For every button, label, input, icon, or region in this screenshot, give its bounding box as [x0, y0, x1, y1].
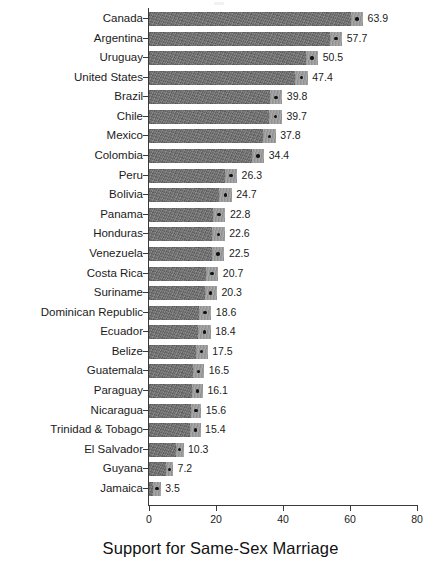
category-label: Honduras	[93, 224, 143, 244]
point-estimate-dot	[210, 272, 213, 275]
point-estimate-dot	[194, 409, 197, 412]
value-label: 15.4	[205, 420, 225, 440]
value-label: 3.5	[165, 479, 180, 499]
value-label: 18.4	[215, 322, 235, 342]
bar-row: Suriname20.3	[0, 283, 441, 303]
value-label: 50.5	[323, 48, 343, 68]
category-label: Colombia	[94, 146, 143, 166]
value-label: 26.3	[242, 166, 262, 186]
bar	[149, 247, 224, 261]
bar	[149, 482, 161, 496]
bar-row: Chile39.7	[0, 107, 441, 127]
bar-row: Ecuador18.4	[0, 322, 441, 342]
bar	[149, 423, 201, 437]
bar-row: Paraguay16.1	[0, 381, 441, 401]
x-axis-title: Support for Same-Sex Marriage	[0, 539, 441, 558]
bar	[149, 32, 342, 46]
bar	[149, 384, 203, 398]
x-axis-tick	[417, 505, 418, 511]
bar-row: Honduras22.6	[0, 224, 441, 244]
x-axis-tick-label: 0	[146, 513, 152, 525]
bar	[149, 364, 204, 378]
point-estimate-dot	[256, 154, 259, 157]
point-estimate-dot	[224, 193, 227, 196]
point-estimate-dot	[334, 37, 337, 40]
category-label: Guyana	[103, 459, 143, 479]
point-estimate-dot	[229, 174, 232, 177]
bar	[149, 71, 308, 85]
bar-row: Guatemala16.5	[0, 361, 441, 381]
category-label: Panama	[100, 205, 143, 225]
bar	[149, 169, 237, 183]
category-label: Brazil	[114, 87, 143, 107]
value-label: 20.3	[222, 283, 242, 303]
bar	[149, 325, 211, 339]
value-label: 17.5	[212, 342, 232, 362]
bar-row: Brazil39.8	[0, 87, 441, 107]
bar-row: Trinidad & Tobago15.4	[0, 420, 441, 440]
category-label: Nicaragua	[91, 401, 143, 421]
bar	[149, 306, 211, 320]
bar	[149, 110, 282, 124]
bar	[149, 443, 184, 457]
bar-row: Argentina57.7	[0, 29, 441, 49]
point-estimate-dot	[194, 428, 197, 431]
bar	[149, 12, 363, 26]
bar	[149, 267, 218, 281]
bar-row: United States47.4	[0, 68, 441, 88]
value-label: 34.4	[269, 146, 289, 166]
category-label: Guatemala	[87, 361, 143, 381]
bar-row: Guyana7.2	[0, 459, 441, 479]
category-label: El Salvador	[84, 440, 143, 460]
value-label: 57.7	[347, 29, 367, 49]
value-label: 22.6	[229, 224, 249, 244]
category-label: Bolivia	[109, 185, 143, 205]
x-axis-tick	[350, 505, 351, 511]
bar	[149, 51, 318, 65]
value-label: 10.3	[188, 440, 208, 460]
bar-row: Bolivia24.7	[0, 185, 441, 205]
value-label: 16.1	[207, 381, 227, 401]
category-label: Uruguay	[100, 48, 143, 68]
bar	[149, 208, 225, 222]
point-estimate-dot	[274, 96, 277, 99]
x-axis-tick	[149, 505, 150, 511]
bar	[149, 149, 264, 163]
value-label: 63.9	[368, 9, 388, 29]
point-estimate-dot	[355, 17, 358, 20]
bar-rows: Canada63.9Argentina57.7Uruguay50.5United…	[0, 0, 441, 505]
bar-row: Canada63.9	[0, 9, 441, 29]
x-axis-tick	[216, 505, 217, 511]
category-label: Jamaica	[100, 479, 143, 499]
point-estimate-dot	[168, 468, 171, 471]
bar	[149, 345, 208, 359]
value-label: 18.6	[216, 303, 236, 323]
category-label: Venezuela	[89, 244, 143, 264]
bar-row: Jamaica3.5	[0, 479, 441, 499]
x-axis-tick-label: 20	[210, 513, 222, 525]
bar	[149, 286, 217, 300]
category-label: Belize	[112, 342, 143, 362]
category-label: Argentina	[94, 29, 143, 49]
value-label: 7.2	[178, 459, 193, 479]
value-label: 47.4	[312, 68, 332, 88]
value-label: 37.8	[280, 126, 300, 146]
category-label: Trinidad & Tobago	[50, 420, 143, 440]
point-estimate-dot	[203, 330, 206, 333]
point-estimate-dot	[203, 311, 206, 314]
plot-area: Canada63.9Argentina57.7Uruguay50.5United…	[0, 0, 441, 572]
x-axis-tick	[283, 505, 284, 511]
category-label: Costa Rica	[87, 264, 143, 284]
point-estimate-dot	[196, 389, 199, 392]
category-label: United States	[74, 68, 143, 88]
value-label: 16.5	[209, 361, 229, 381]
value-label: 22.8	[230, 205, 250, 225]
category-label: Chile	[117, 107, 143, 127]
point-estimate-dot	[217, 233, 220, 236]
bar	[149, 227, 225, 241]
x-axis-tick-label: 60	[344, 513, 356, 525]
bar-row: Dominican Republic18.6	[0, 303, 441, 323]
category-label: Dominican Republic	[41, 303, 143, 323]
category-label: Paraguay	[94, 381, 143, 401]
category-label: Canada	[103, 9, 143, 29]
